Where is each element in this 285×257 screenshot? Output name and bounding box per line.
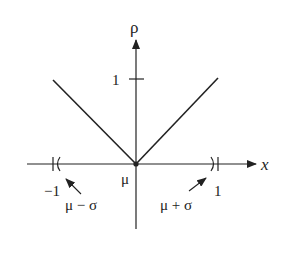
right-branch-line [136, 78, 218, 164]
x-axis-label: x [261, 156, 269, 173]
y-tick-label: 1 [112, 73, 120, 88]
right-tick-label: 1 [214, 184, 222, 199]
origin-point [133, 161, 138, 166]
diagram-canvas [0, 0, 285, 257]
origin-label: μ [121, 172, 129, 187]
left-tick-label: −1 [44, 184, 60, 199]
left-annotation-arrow [66, 179, 81, 194]
right-annotation: μ + σ [160, 198, 192, 213]
left-branch-line [53, 80, 136, 164]
right-annotation-arrow [189, 178, 206, 191]
y-axis-label: ρ [130, 19, 138, 36]
left-annotation: μ − σ [65, 198, 97, 213]
